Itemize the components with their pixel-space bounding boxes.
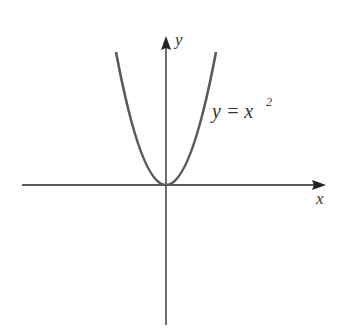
curve-label: y = x [210,100,253,123]
curve-label-exponent: 2 [266,95,272,109]
y-axis-label: y [173,30,183,49]
y-axis-arrow-icon [161,36,171,50]
parabola-diagram: y x y = x 2 [0,0,342,328]
x-axis-label: x [315,189,324,208]
